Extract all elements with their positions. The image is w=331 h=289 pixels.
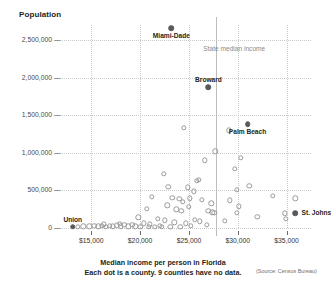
data-point[interactable] xyxy=(186,204,191,209)
gridline-horizontal xyxy=(62,190,311,191)
x-tick-label: $30,000 xyxy=(225,237,250,244)
gridline-vertical xyxy=(140,25,141,228)
data-point-st-johns[interactable] xyxy=(293,210,299,216)
gridline-horizontal xyxy=(62,78,311,79)
data-point[interactable] xyxy=(162,218,167,223)
data-point[interactable] xyxy=(155,216,160,221)
data-point[interactable] xyxy=(178,208,183,213)
chart-title: Median income per person in Florida xyxy=(0,258,326,267)
data-point[interactable] xyxy=(191,188,196,193)
y-tick-label: 0 xyxy=(0,224,52,231)
data-point[interactable] xyxy=(172,220,177,225)
data-point-label: Miami-Dade xyxy=(153,32,190,39)
y-tick-mark: — xyxy=(54,186,61,193)
gridline-horizontal xyxy=(62,115,311,116)
x-tick-mark xyxy=(287,231,288,235)
data-point[interactable] xyxy=(149,194,154,199)
y-tick-mark: — xyxy=(54,224,61,231)
chart-source: (Source: Census Bureau) xyxy=(256,268,317,274)
data-point[interactable] xyxy=(166,184,171,189)
y-tick-mark: — xyxy=(54,111,61,118)
plot-area xyxy=(62,25,311,228)
data-point[interactable] xyxy=(270,193,275,198)
y-tick-label: 500,000 xyxy=(0,186,52,193)
data-point[interactable] xyxy=(227,197,232,202)
gridline-vertical xyxy=(238,25,239,228)
gridline-vertical xyxy=(91,25,92,228)
data-point[interactable] xyxy=(202,158,207,163)
x-tick-label: $25,000 xyxy=(177,237,202,244)
x-tick-mark xyxy=(140,231,141,235)
data-point-palm-beach[interactable] xyxy=(245,121,251,127)
y-tick-mark: — xyxy=(54,74,61,81)
x-tick-label: $20,000 xyxy=(128,237,153,244)
data-point[interactable] xyxy=(165,203,170,208)
state-median-income-label: State median income xyxy=(203,45,265,52)
x-tick-mark xyxy=(238,231,239,235)
data-point[interactable] xyxy=(194,178,199,183)
data-point[interactable] xyxy=(255,214,260,219)
y-tick-label: 2,000,000 xyxy=(0,74,52,81)
y-tick-mark: — xyxy=(54,36,61,43)
data-point[interactable] xyxy=(204,222,209,227)
y-tick-label: 1,500,000 xyxy=(0,111,52,118)
data-point[interactable] xyxy=(187,196,192,201)
x-tick-label: $15,000 xyxy=(79,237,104,244)
gridline-horizontal xyxy=(62,40,311,41)
data-point[interactable] xyxy=(209,200,214,205)
data-point[interactable] xyxy=(238,155,243,160)
data-point-label: Broward xyxy=(195,76,222,83)
data-point-broward[interactable] xyxy=(206,85,212,91)
data-point[interactable] xyxy=(293,196,298,201)
data-point-label: Union xyxy=(63,216,82,223)
data-point[interactable] xyxy=(144,206,149,211)
data-point-label: St. Johns xyxy=(302,209,331,216)
data-point[interactable] xyxy=(232,166,237,171)
data-point-miami-dade[interactable] xyxy=(169,25,175,31)
data-point[interactable] xyxy=(161,171,166,176)
y-tick-label: 2,500,000 xyxy=(0,36,52,43)
data-point-label: Palm Beach xyxy=(229,128,266,135)
data-point[interactable] xyxy=(236,203,241,208)
data-point[interactable] xyxy=(170,195,175,200)
gridline-horizontal xyxy=(62,153,311,154)
gridline-vertical xyxy=(287,25,288,228)
y-tick-label: 1,000,000 xyxy=(0,149,52,156)
data-point[interactable] xyxy=(222,218,227,223)
y-axis-title: Population xyxy=(19,10,61,19)
data-point[interactable] xyxy=(181,125,186,130)
x-tick-mark xyxy=(91,231,92,235)
x-tick-mark xyxy=(189,231,190,235)
y-tick-mark: — xyxy=(54,149,61,156)
data-point[interactable] xyxy=(199,197,204,202)
data-point[interactable] xyxy=(247,183,252,188)
data-point[interactable] xyxy=(197,219,202,224)
data-point[interactable] xyxy=(180,199,185,204)
x-tick-label: $35,000 xyxy=(274,237,299,244)
